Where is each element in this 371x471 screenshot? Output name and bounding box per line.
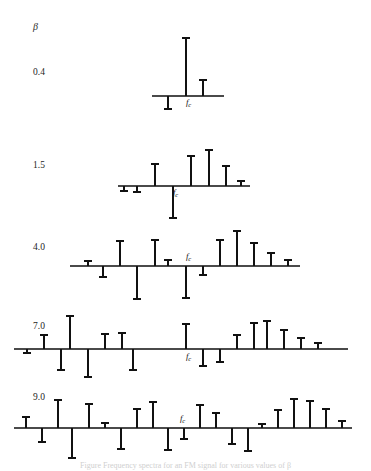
spectrum-row-beta-7-0 — [14, 316, 348, 377]
spectrum-row-beta-1-5 — [118, 150, 250, 218]
carrier-freq-label-row-0: fc — [186, 98, 191, 107]
carrier-freq-label-row-1: fc — [173, 188, 178, 197]
spectrum-row-beta-4-0 — [70, 231, 300, 299]
carrier-freq-label-row-2: fc — [186, 252, 191, 261]
carrier-freq-label-row-3: fc — [186, 352, 191, 361]
carrier-c-subscript: c — [188, 355, 191, 362]
carrier-c-subscript: c — [175, 191, 178, 198]
carrier-c-subscript: c — [188, 101, 191, 108]
spectrum-row-beta-9-0 — [14, 399, 352, 458]
figure-caption: Figure Frequency spectra for an FM signa… — [0, 462, 371, 471]
carrier-freq-label-row-4: fc — [180, 414, 185, 423]
carrier-c-subscript: c — [188, 255, 191, 262]
carrier-c-subscript: c — [182, 417, 185, 424]
